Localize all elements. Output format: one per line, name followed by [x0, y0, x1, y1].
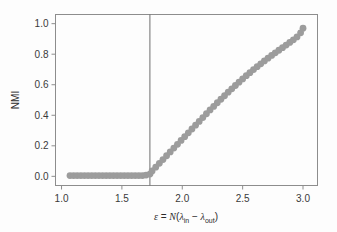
- x-axis-title: ε = N(λin − λout): [154, 211, 218, 224]
- y-tick-label: 0.8: [35, 49, 49, 60]
- x-axis-title-close-paren: ): [215, 211, 218, 222]
- y-tick-label: 0.6: [35, 79, 49, 90]
- y-tick-label: 1.0: [35, 18, 49, 29]
- chart-canvas: 1.01.52.02.53.0 0.00.20.40.60.81.0 NMI ε…: [0, 0, 337, 232]
- y-tick-label: 0.2: [35, 140, 49, 151]
- x-axis-title-minus: −: [189, 211, 200, 222]
- y-axis-tick-labels: 0.00.20.40.60.81.0: [35, 18, 49, 182]
- y-tick-label: 0.0: [35, 171, 49, 182]
- x-tick-label: 1.0: [55, 193, 69, 204]
- figure-container: 1.01.52.02.53.0 0.00.20.40.60.81.0 NMI ε…: [0, 0, 337, 232]
- y-tick-label: 0.4: [35, 110, 49, 121]
- x-axis-ticks: [62, 186, 303, 190]
- x-tick-label: 2.5: [236, 193, 250, 204]
- x-tick-label: 1.5: [115, 193, 129, 204]
- plot-frame: [56, 15, 318, 186]
- x-tick-label: 2.0: [175, 193, 189, 204]
- data-point: [300, 25, 307, 32]
- x-axis-title-sub-out: out: [205, 217, 215, 224]
- y-axis-ticks: [52, 24, 56, 177]
- y-axis-title: NMI: [10, 91, 21, 109]
- x-tick-label: 3.0: [296, 193, 310, 204]
- data-series-nmi: [67, 25, 307, 179]
- x-axis-tick-labels: 1.01.52.02.53.0: [55, 193, 311, 204]
- x-axis-title-equals: =: [158, 211, 169, 222]
